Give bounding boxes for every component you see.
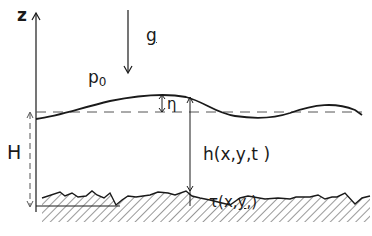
pressure-label: p0 [88,69,106,88]
local-depth-dimension [187,97,193,206]
z-axis-label: z [17,7,27,24]
gravity-arrow [124,10,132,73]
mean-depth-label: H [7,143,21,162]
mean-depth-dimension [27,112,33,207]
free-surface-curve [36,95,362,119]
bottom-label: τ(x,y,) [209,195,257,210]
bottom-label-suffix: ,) [246,193,257,211]
gravity-label: g [146,27,157,44]
local-depth-label: h(x,y,t ) [203,146,270,163]
shallow-water-diagram [0,0,372,236]
pressure-base: p [88,67,99,87]
bottom-label-prefix: τ(x, [209,193,238,211]
surface-elevation-dimension [159,95,165,112]
surface-elevation-label: η [167,97,177,112]
pressure-subscript: 0 [99,75,107,89]
